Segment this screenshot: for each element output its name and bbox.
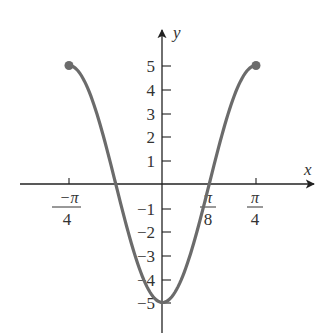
- svg-text:8: 8: [204, 210, 213, 229]
- svg-text:4: 4: [63, 210, 72, 229]
- y-tick-label: −1: [137, 200, 155, 219]
- y-tick-label: 3: [147, 105, 156, 124]
- svg-text:π: π: [251, 189, 260, 206]
- x-axis-label: x: [303, 160, 312, 179]
- y-tick-label: 2: [147, 128, 156, 147]
- chart-canvas: x y −π 4 π 8 π 4 5 4 3 2 1: [0, 0, 320, 336]
- left-endpoint-dot: [64, 61, 73, 70]
- x-tick-label-neg-pi-4: −π 4: [52, 189, 81, 229]
- svg-text:4: 4: [251, 210, 260, 229]
- svg-text:−π: −π: [60, 189, 80, 206]
- y-tick-labels: 5 4 3 2 1 −1 −2 −3 −4 −5: [137, 57, 156, 313]
- y-tick-label: −3: [137, 247, 155, 266]
- right-endpoint-dot: [252, 61, 261, 70]
- y-tick-label: 5: [147, 57, 156, 76]
- x-tick-label-pi-4: π 4: [247, 189, 263, 229]
- y-axis-label: y: [171, 23, 181, 42]
- y-tick-label: 4: [147, 81, 156, 100]
- y-tick-label: −2: [137, 223, 155, 242]
- y-tick-label: 1: [147, 152, 156, 171]
